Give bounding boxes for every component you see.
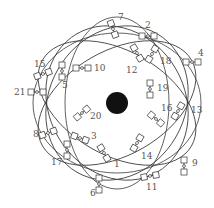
satellite-label: 19: [157, 83, 169, 93]
constellation-diagram: 123456789101112131415161718192021: [0, 0, 214, 208]
satellite-icon: [71, 132, 90, 144]
satellite-label: 15: [34, 59, 46, 69]
satellite-icon: [97, 144, 111, 163]
satellite-label: 3: [91, 131, 97, 141]
satellite-icon: [28, 89, 46, 95]
satellite-icon: [141, 171, 160, 180]
satellite-icon: [130, 134, 144, 153]
satellite-label: 9: [192, 158, 198, 168]
satellite-label: 4: [198, 48, 204, 58]
satellite-label: 11: [146, 182, 157, 192]
satellite-icon: [130, 44, 144, 63]
satellite-icon: [145, 45, 159, 64]
satellite-icon: [181, 157, 187, 175]
satellite-icon: [73, 65, 91, 71]
satellite-label: 10: [94, 63, 106, 73]
satellite-label: 5: [62, 80, 68, 90]
satellite-label: 6: [90, 188, 96, 198]
satellite-icon: [96, 175, 102, 193]
earth-icon: [106, 92, 128, 114]
satellite-label: 8: [33, 129, 39, 139]
satellite-label: 1: [114, 159, 120, 169]
satellite-label: 21: [14, 87, 25, 97]
satellite-icon: [147, 80, 153, 98]
satellite-icon: [59, 62, 65, 80]
satellite-icon: [183, 59, 201, 65]
satellite-icon: [107, 20, 119, 39]
satellite-label: 12: [126, 65, 137, 75]
satellite-label: 16: [161, 103, 173, 113]
satellite-label: 14: [141, 151, 153, 161]
satellite-icon: [73, 105, 91, 121]
satellite-label: 2: [145, 20, 151, 30]
satellite-label: 7: [118, 12, 124, 22]
satellite-icon: [39, 127, 58, 139]
satellite-label: 18: [160, 56, 172, 66]
satellite-icon: [171, 102, 185, 121]
satellite-label: 13: [191, 105, 203, 115]
satellite-label: 20: [90, 111, 102, 121]
satellite-label: 17: [51, 157, 63, 167]
satellite-icon: [64, 141, 70, 159]
satellite-icon: [147, 111, 165, 127]
